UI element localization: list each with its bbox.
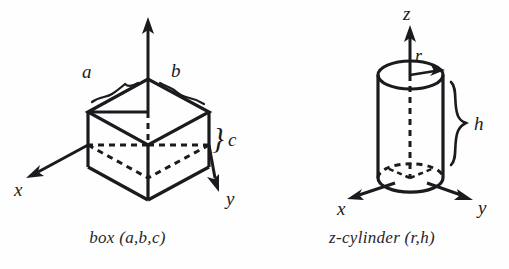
cylinder-label-h: h (474, 113, 484, 134)
box-label-c: c (228, 129, 237, 150)
box-brace-a (92, 83, 138, 102)
cylinder-diagram: z (255, 0, 509, 225)
figure-page: a b } c x y box (a,b,c) z (0, 0, 509, 269)
box-diagram: a b } c x y (0, 0, 255, 225)
cylinder-origin-stubs (387, 168, 434, 178)
box-z-axis (142, 17, 154, 112)
cylinder-axis-label-x: x (336, 198, 346, 219)
cylinder-radius-arrow (410, 65, 445, 76)
cylinder-label-r: r (415, 46, 423, 66)
box-label-a: a (82, 61, 92, 82)
cylinder-brace-h (451, 82, 466, 165)
box-caption: box (a,b,c) (0, 228, 255, 248)
box-axis-label-y: y (224, 188, 235, 209)
cylinder-axis-label-y: y (476, 197, 487, 218)
figure-box: a b } c x y box (a,b,c) (0, 0, 255, 269)
box-x-axis (26, 145, 88, 178)
cylinder-caption: z-cylinder (r,h) (255, 228, 509, 248)
box-brace-c-glyph: } (212, 121, 224, 154)
box-axis-label-x: x (13, 179, 23, 200)
cylinder-axis-label-z: z (402, 3, 411, 24)
box-brace-b (160, 83, 204, 104)
cylinder-x-axis (347, 183, 395, 200)
cylinder-y-axis (427, 183, 473, 200)
box-label-b: b (171, 60, 181, 81)
figure-cylinder: z (255, 0, 509, 269)
